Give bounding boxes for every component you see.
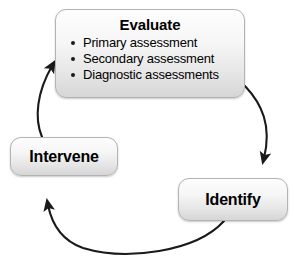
node-evaluate[interactable]: Evaluate Primary assessment Secondary as… xyxy=(55,9,245,98)
arrow-evaluate-to-identify xyxy=(245,86,267,158)
diagram-canvas: Evaluate Primary assessment Secondary as… xyxy=(0,0,295,265)
node-intervene-label: Intervene xyxy=(29,148,98,166)
evaluate-bullet-list: Primary assessment Secondary assessment … xyxy=(64,35,236,83)
node-identify[interactable]: Identify xyxy=(178,178,288,221)
node-evaluate-title: Evaluate xyxy=(64,16,236,34)
list-item: Secondary assessment xyxy=(68,51,236,67)
node-identify-label: Identify xyxy=(205,191,260,209)
list-item: Primary assessment xyxy=(68,35,236,51)
arrow-intervene-to-evaluate xyxy=(38,66,52,137)
list-item: Diagnostic assessments xyxy=(68,67,236,83)
node-intervene[interactable]: Intervene xyxy=(10,137,118,176)
